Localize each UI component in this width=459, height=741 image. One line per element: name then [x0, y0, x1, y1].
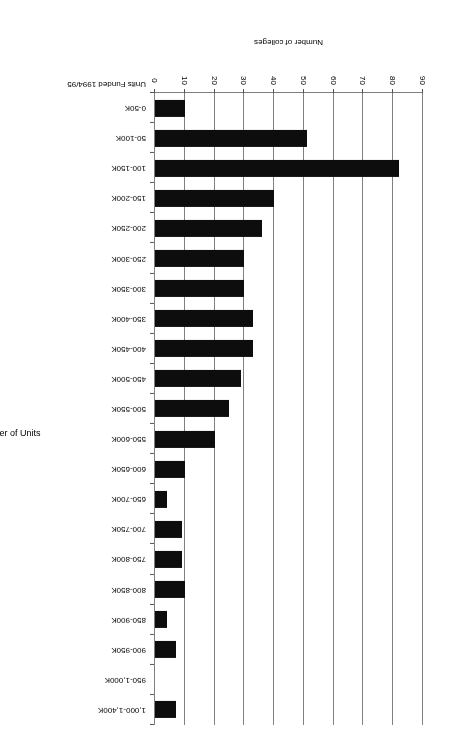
category-axis-label: 700-750K — [33, 523, 151, 535]
category-axis-tick — [150, 664, 154, 665]
value-axis-tick-label: 40 — [269, 66, 280, 96]
bar — [155, 250, 244, 267]
category-axis-title: Number of Units — [0, 425, 63, 441]
category-axis-tick — [150, 333, 154, 334]
category-axis-label: 750-800K — [33, 553, 151, 565]
category-axis-label: 100-150K — [33, 162, 151, 174]
value-axis-line — [154, 92, 423, 93]
category-axis-tick — [150, 724, 154, 725]
value-axis-tick-label: 30 — [239, 66, 250, 96]
gridline — [303, 93, 304, 725]
bar — [155, 340, 253, 357]
bar — [155, 100, 185, 117]
category-axis-tick — [150, 182, 154, 183]
category-axis-tick — [150, 363, 154, 364]
category-axis-label: 300-350K — [33, 283, 151, 295]
value-axis-tick-label: 90 — [418, 66, 429, 96]
category-axis-tick — [150, 212, 154, 213]
value-axis-tick-label: 50 — [298, 66, 309, 96]
bar — [155, 431, 215, 448]
bar — [155, 551, 182, 568]
category-axis-tick — [150, 604, 154, 605]
gridline — [333, 93, 334, 725]
category-axis-tick — [150, 152, 154, 153]
category-axis-label: 200-250K — [33, 222, 151, 234]
category-axis-label: 0-50K — [33, 102, 151, 114]
category-axis-label: 800-850K — [33, 584, 151, 596]
value-axis-tick-label: 20 — [209, 66, 220, 96]
gridline — [392, 93, 393, 725]
category-axis-tick — [150, 303, 154, 304]
gridline — [362, 93, 363, 725]
category-axis-label: 150-200K — [33, 192, 151, 204]
value-axis-tick-label: 70 — [358, 66, 369, 96]
category-axis-label: 250-300K — [33, 253, 151, 265]
category-axis-label: 500-550K — [33, 403, 151, 415]
category-axis-label: 650-700K — [33, 493, 151, 505]
category-axis-label: 850-900K — [33, 614, 151, 626]
bar — [155, 280, 244, 297]
category-axis-tick — [150, 543, 154, 544]
gridline — [243, 93, 244, 725]
bar — [155, 220, 262, 237]
bar — [155, 130, 307, 147]
category-axis-label: 50-100K — [33, 132, 151, 144]
value-axis-tick-label: 60 — [328, 66, 339, 96]
category-axis-tick — [150, 242, 154, 243]
category-axis-tick — [150, 483, 154, 484]
value-axis-tick-label: 10 — [179, 66, 190, 96]
category-axis-label: 1,000-1,400K — [33, 704, 151, 716]
bar — [155, 641, 176, 658]
category-axis-label: 900-950K — [33, 644, 151, 656]
value-axis-title: Number of colleges — [154, 38, 423, 47]
gridline — [422, 93, 423, 725]
bar — [155, 190, 274, 207]
category-axis-tick — [150, 634, 154, 635]
category-axis-tick — [150, 694, 154, 695]
category-axis-tick — [150, 393, 154, 394]
chart-figure: Number of units funded in colleges 1994/… — [0, 0, 459, 741]
bar — [155, 160, 399, 177]
category-axis-tick — [150, 122, 154, 123]
value-axis-tick-label: 80 — [388, 66, 399, 96]
value-axis-tick-label: 0 — [150, 66, 161, 96]
category-axis-tick — [150, 453, 154, 454]
category-axis-label: 600-650K — [33, 463, 151, 475]
bar — [155, 491, 167, 508]
category-axis-label: 450-500K — [33, 373, 151, 385]
bar — [155, 370, 241, 387]
category-axis-tick — [150, 423, 154, 424]
bar — [155, 581, 185, 598]
category-axis-tick — [150, 513, 154, 514]
bar — [155, 461, 185, 478]
gridline — [273, 93, 274, 725]
category-axis-tick — [150, 273, 154, 274]
category-axis-label: 350-400K — [33, 313, 151, 325]
category-axis-tick — [150, 574, 154, 575]
bar — [155, 611, 167, 628]
category-axis-tick — [150, 92, 154, 93]
bar — [155, 310, 253, 327]
category-axis-header: Units Funded 1994/95 — [23, 80, 151, 89]
category-axis-label: 400-450K — [33, 343, 151, 355]
bar — [155, 701, 176, 718]
chart-canvas: Number of units funded in colleges 1994/… — [0, 0, 459, 741]
bar — [155, 401, 229, 418]
bar — [155, 521, 182, 538]
chart-title: Number of units funded in colleges 1994/… — [0, 0, 2, 741]
category-axis-label: 950-1,000K — [33, 674, 151, 686]
